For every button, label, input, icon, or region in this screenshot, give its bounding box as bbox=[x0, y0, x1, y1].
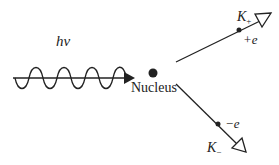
k-plus-dot bbox=[237, 28, 242, 33]
k-plus-label: K+ bbox=[236, 9, 251, 26]
kaon-pair-production-diagram: hν Nucleus K+ +e −e K− bbox=[0, 0, 279, 165]
k-minus-dot bbox=[216, 122, 221, 127]
nucleus-dot bbox=[149, 69, 158, 78]
k-plus-charge: +e bbox=[243, 32, 258, 47]
k-minus-label: K− bbox=[206, 140, 221, 157]
photon-wave bbox=[13, 67, 135, 88]
k-minus-charge: −e bbox=[225, 116, 240, 131]
nucleus-label: Nucleus bbox=[131, 80, 177, 95]
k-plus-arrowhead-icon bbox=[255, 13, 271, 27]
k-minus-arrowhead-icon bbox=[232, 138, 246, 152]
photon-label: hν bbox=[56, 33, 71, 49]
